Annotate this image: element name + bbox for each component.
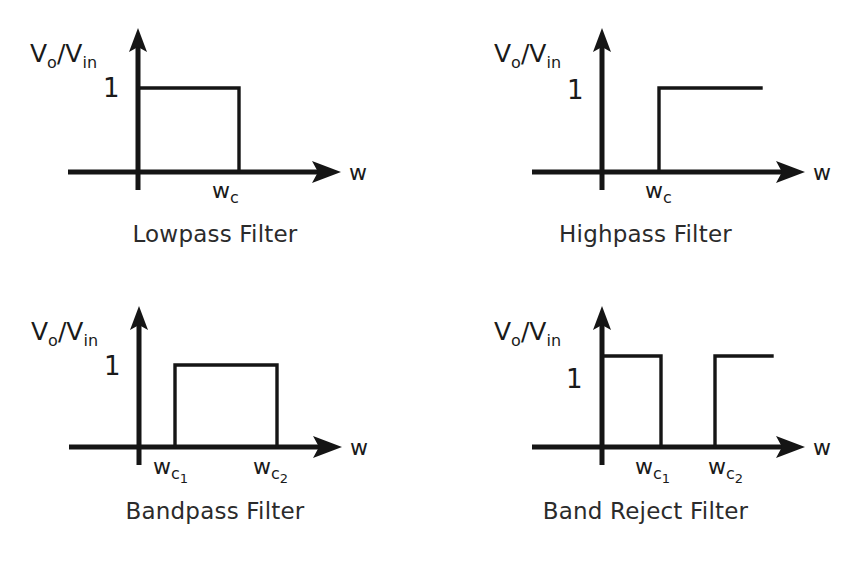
y-axis-label: Vo/Vin (31, 317, 98, 350)
panel-highpass: Vo/Vin 1 w wc Highpass Filter (430, 0, 861, 280)
x-axis-label: w (813, 160, 831, 185)
y-axis-label: Vo/Vin (494, 317, 561, 350)
y-axis-tick-label-1: 1 (566, 364, 583, 394)
panel-bandpass: Vo/Vin 1 w wc1 wc2 Bandpass Filter (0, 280, 430, 563)
caption-lowpass: Lowpass Filter (0, 221, 430, 247)
response-curve (659, 88, 761, 172)
x-axis-tick-label-wc: wc (212, 178, 239, 207)
panel-bandreject: Vo/Vin 1 w wc1 wc2 Band Reject Filter (430, 280, 861, 563)
y-axis-tick-label-1: 1 (104, 351, 121, 381)
x-axis-label: w (350, 435, 368, 460)
y-axis-tick-label-1: 1 (103, 73, 120, 103)
caption-highpass: Highpass Filter (430, 221, 861, 247)
y-axis-label: Vo/Vin (494, 39, 561, 72)
x-axis-label: w (349, 160, 367, 185)
y-axis-label: Vo/Vin (30, 39, 97, 72)
x-axis-tick-label-wc2: wc2 (708, 454, 743, 486)
x-axis-tick-label-wc: wc (645, 178, 672, 207)
caption-bandpass: Bandpass Filter (0, 498, 430, 524)
x-axis-tick-label-wc1: wc1 (635, 454, 670, 486)
x-axis-label: w (813, 435, 831, 460)
response-curve-lower (602, 356, 661, 447)
x-axis-tick-label-wc1: wc1 (153, 454, 188, 486)
response-curve (175, 365, 277, 447)
x-axis-tick-label-wc2: wc2 (253, 454, 288, 486)
response-curve-upper (715, 356, 772, 447)
panel-lowpass: Vo/Vin 1 w wc Lowpass Filter (0, 0, 430, 280)
caption-bandreject: Band Reject Filter (430, 498, 861, 524)
y-axis-tick-label-1: 1 (567, 75, 584, 105)
response-curve (138, 88, 239, 172)
filter-response-figure: Vo/Vin 1 w wc Lowpass Filter Vo/Vin 1 w … (0, 0, 861, 563)
